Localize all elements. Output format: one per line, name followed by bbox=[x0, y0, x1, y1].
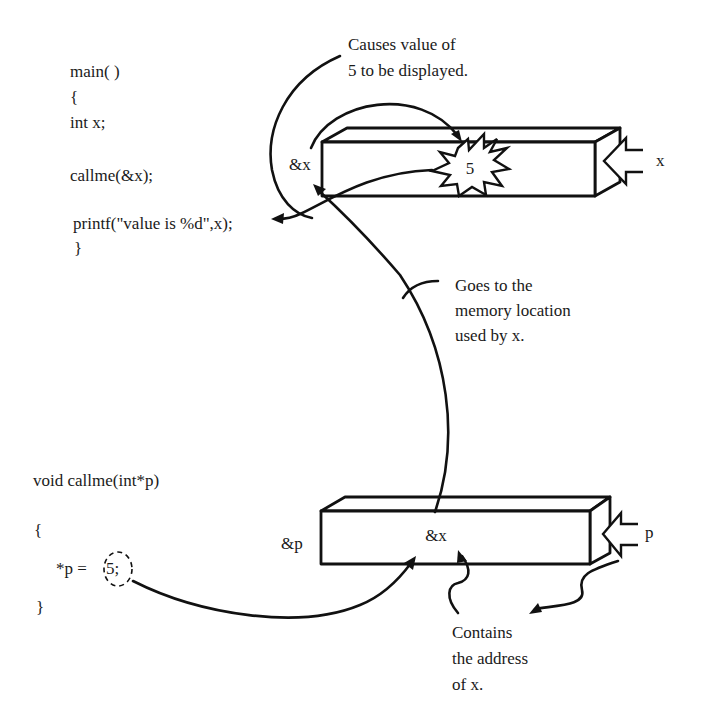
memory-cell-x-address-label: &x bbox=[289, 155, 311, 174]
memory-cell-x-name-label: x bbox=[656, 151, 665, 170]
arrowhead-icon bbox=[271, 213, 284, 224]
memory-cell-p bbox=[321, 497, 610, 564]
arrowhead-icon bbox=[529, 603, 542, 614]
memory-cell-p-value: &x bbox=[425, 526, 447, 545]
assign-value-arrow bbox=[133, 563, 411, 617]
pointer-dereference-curve bbox=[318, 190, 448, 512]
memory-cell-x-top-face bbox=[322, 128, 620, 142]
p-to-contains-squiggle bbox=[535, 561, 618, 609]
memory-cell-p-top-face bbox=[321, 497, 610, 511]
memory-diagram: 5 &x x &x &p p bbox=[0, 0, 702, 718]
memory-cell-p-name-label: p bbox=[645, 523, 654, 542]
memory-cell-p-front-face bbox=[321, 511, 590, 564]
value-highlight-circle bbox=[104, 552, 132, 586]
memory-cell-x-value: 5 bbox=[466, 159, 475, 178]
memory-cell-p-address-label: &p bbox=[281, 534, 303, 553]
